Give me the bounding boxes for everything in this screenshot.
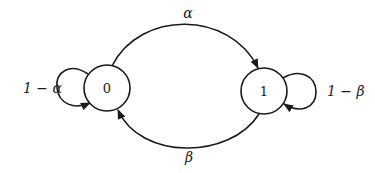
state-node-1: 1 (241, 68, 287, 114)
self-loop-1: 1 − β (283, 74, 365, 109)
state-label-0: 0 (103, 81, 111, 96)
edge-0-to-1: α (112, 5, 258, 68)
edge-1-to-0: β (118, 110, 259, 165)
edge-label-beta: β (184, 149, 193, 165)
edge-label-alpha: α (183, 5, 193, 21)
markov-chain-diagram: α β 1 − α 1 − β 0 1 (0, 0, 375, 173)
edge-label-1-minus-beta: 1 − β (327, 83, 365, 99)
edge-label-1-minus-alpha: 1 − α (23, 80, 63, 96)
self-loop-0: 1 − α (23, 69, 90, 106)
state-label-1: 1 (260, 84, 268, 99)
state-node-0: 0 (84, 65, 130, 111)
